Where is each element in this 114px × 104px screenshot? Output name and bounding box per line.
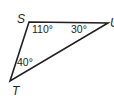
vertex-label-t: T xyxy=(12,84,21,98)
vertex-label-u: U xyxy=(110,16,114,30)
angle-label-s: 110° xyxy=(32,23,53,35)
angle-label-u: 30° xyxy=(71,23,87,35)
angle-label-t: 40° xyxy=(17,56,33,68)
vertex-label-s: S xyxy=(17,12,25,26)
triangle-diagram: S U T 110° 30° 40° xyxy=(0,0,114,104)
triangle-stu xyxy=(10,22,108,81)
